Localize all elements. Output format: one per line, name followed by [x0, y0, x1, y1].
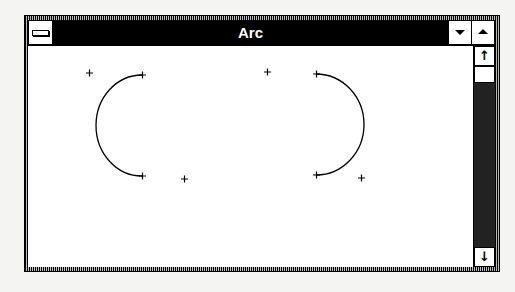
triangle-up-icon: [478, 29, 488, 34]
triangle-down-icon: [455, 30, 465, 35]
plus-marker-icon: [86, 70, 93, 77]
window-title: Arc: [54, 20, 447, 45]
system-menu-icon: [32, 30, 49, 36]
plus-marker-icon: [139, 173, 146, 180]
vertical-scrollbar[interactable]: ↑ ↓: [474, 46, 495, 267]
right-arc: [316, 74, 364, 175]
arrow-up-icon: ↑: [475, 48, 494, 64]
plus-marker-icon: [313, 172, 320, 179]
arrow-down-icon: ↓: [475, 249, 494, 265]
arc-window: Arc: [24, 15, 500, 272]
scroll-up-button[interactable]: ↑: [474, 46, 495, 66]
plus-marker-icon: [181, 176, 188, 183]
client-area: [28, 46, 473, 267]
plus-marker-icon: [313, 71, 320, 78]
system-menu-button[interactable]: [29, 21, 52, 44]
plus-marker-icon: [264, 69, 271, 76]
marker-group: [86, 69, 365, 183]
plus-marker-icon: [139, 72, 146, 79]
plus-marker-icon: [358, 175, 365, 182]
title-bar[interactable]: Arc: [28, 20, 495, 45]
maximize-button[interactable]: [472, 21, 494, 44]
arc-drawing-canvas: [28, 46, 473, 267]
minimize-button[interactable]: [449, 21, 471, 44]
window-frame: Arc: [28, 20, 495, 267]
scrollbar-thumb[interactable]: [474, 66, 495, 83]
left-arc: [96, 75, 142, 176]
scroll-down-button[interactable]: ↓: [474, 247, 495, 267]
